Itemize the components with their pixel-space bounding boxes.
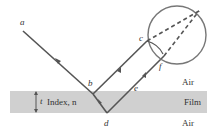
label-a: a xyxy=(20,18,25,27)
region-air-top: Air xyxy=(182,78,194,87)
reflected-ray-bc xyxy=(93,41,147,94)
ray-diagram xyxy=(0,0,217,133)
dashed-ray-f xyxy=(164,11,199,56)
label-b: b xyxy=(88,79,93,88)
index-label: Index, n xyxy=(47,98,77,107)
reflected-ray-in-film xyxy=(107,91,129,113)
region-film: Film xyxy=(184,98,201,107)
arrow-icon xyxy=(98,99,102,104)
region-air-bottom: Air xyxy=(182,119,194,128)
arrow-down-icon xyxy=(34,109,38,113)
label-c: c xyxy=(139,34,143,43)
arrow-up-icon xyxy=(34,91,38,95)
label-e: e xyxy=(134,84,138,93)
lens-circle xyxy=(148,6,206,64)
label-d: d xyxy=(104,119,109,128)
label-f: f xyxy=(159,62,162,71)
thickness-label: t xyxy=(40,97,43,106)
